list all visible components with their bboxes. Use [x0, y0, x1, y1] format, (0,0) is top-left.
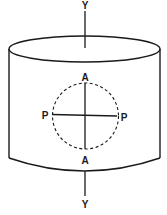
axis-label-top: Y	[82, 0, 89, 11]
cylinder-diagram: Y A A P P Y	[0, 0, 167, 215]
label-p-left: P	[42, 110, 49, 121]
label-a-bottom: A	[81, 155, 88, 166]
diameter-p-p	[52, 115, 117, 117]
axis-label-bottom: Y	[82, 199, 89, 210]
label-a-top: A	[81, 72, 88, 83]
label-p-right: P	[121, 112, 128, 123]
